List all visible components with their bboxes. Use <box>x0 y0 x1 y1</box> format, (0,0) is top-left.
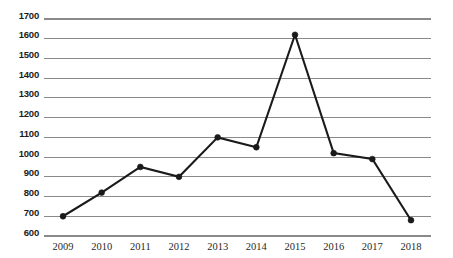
y-tick-label: 1000 <box>19 148 39 159</box>
y-tick-label: 1200 <box>19 108 39 119</box>
data-series <box>63 35 411 220</box>
x-tick-label: 2013 <box>207 241 228 252</box>
y-tick-label: 600 <box>24 227 39 238</box>
x-tick-label: 2010 <box>91 241 112 252</box>
data-point-2009 <box>60 213 66 219</box>
x-tick-label: 2018 <box>401 241 422 252</box>
gridlines <box>44 19 431 236</box>
y-tick-label: 1400 <box>19 69 39 80</box>
y-tick-label: 900 <box>24 167 39 178</box>
data-point-markers <box>60 32 414 223</box>
data-point-2010 <box>99 190 105 196</box>
y-tick-label: 1300 <box>19 88 39 99</box>
chart-canvas: 6007008009001000110012001300140015001600… <box>0 0 453 258</box>
y-tick-label: 1100 <box>19 128 39 139</box>
x-tick-label: 2012 <box>169 241 190 252</box>
x-tick-label: 2015 <box>285 241 306 252</box>
y-axis-tick-labels: 6007008009001000110012001300140015001600… <box>19 10 39 238</box>
line-chart: 6007008009001000110012001300140015001600… <box>0 0 453 258</box>
x-tick-label: 2017 <box>362 241 383 252</box>
x-axis-tick-labels: 2009201020112012201320142015201620172018 <box>53 241 422 252</box>
y-tick-label: 800 <box>24 187 39 198</box>
data-point-2018 <box>408 217 414 223</box>
x-tick-label: 2014 <box>246 241 268 252</box>
data-point-2013 <box>215 134 221 140</box>
y-tick-label: 1700 <box>19 10 39 21</box>
y-tick-label: 1500 <box>19 49 39 60</box>
x-tick-label: 2016 <box>323 241 344 252</box>
data-point-2017 <box>369 156 375 162</box>
plot-area: 6007008009001000110012001300140015001600… <box>0 0 453 258</box>
data-point-2015 <box>292 32 298 38</box>
x-tick-label: 2009 <box>53 241 74 252</box>
x-tick-label: 2011 <box>130 241 151 252</box>
data-point-2014 <box>253 144 259 150</box>
y-tick-label: 1600 <box>19 29 39 40</box>
series-line <box>63 35 411 220</box>
data-point-2011 <box>137 164 143 170</box>
data-point-2016 <box>331 150 337 156</box>
data-point-2012 <box>176 174 182 180</box>
y-tick-label: 700 <box>24 207 39 218</box>
